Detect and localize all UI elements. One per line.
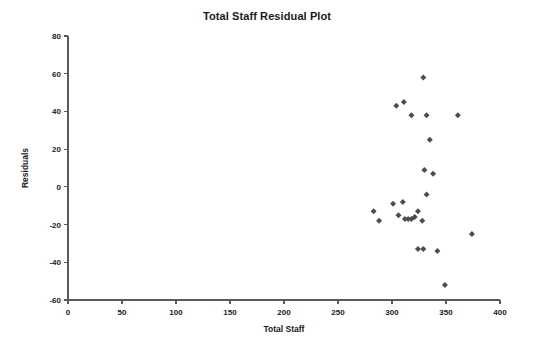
data-point xyxy=(424,191,430,197)
data-point xyxy=(390,201,396,207)
x-tick-label: 400 xyxy=(493,308,507,317)
y-tick-label: -40 xyxy=(49,258,61,267)
x-tick-label: 250 xyxy=(331,308,345,317)
data-point xyxy=(424,112,430,118)
data-point xyxy=(455,112,461,118)
data-point xyxy=(420,74,426,80)
y-tick-label: 80 xyxy=(52,32,61,41)
x-tick-label: 350 xyxy=(439,308,453,317)
x-tick-label: 0 xyxy=(66,308,71,317)
y-tick-label: 0 xyxy=(57,183,62,192)
data-point xyxy=(427,137,433,143)
data-point xyxy=(415,208,421,214)
x-tick-label: 200 xyxy=(277,308,291,317)
x-axis-ticks: 050100150200250300350400 xyxy=(66,300,507,317)
data-point xyxy=(421,167,427,173)
data-point xyxy=(442,282,448,288)
data-point xyxy=(376,218,382,224)
data-point xyxy=(420,246,426,252)
data-point xyxy=(434,248,440,254)
data-point xyxy=(400,199,406,205)
data-point xyxy=(430,171,436,177)
scatter-plot-canvas: -60-40-20020406080 050100150200250300350… xyxy=(0,0,534,351)
x-tick-label: 150 xyxy=(223,308,237,317)
y-tick-label: -60 xyxy=(49,296,61,305)
x-tick-label: 300 xyxy=(385,308,399,317)
y-tick-label: -20 xyxy=(49,221,61,230)
y-tick-label: 20 xyxy=(52,145,61,154)
data-point xyxy=(371,208,377,214)
data-point xyxy=(401,99,407,105)
x-tick-label: 50 xyxy=(118,308,127,317)
y-tick-label: 40 xyxy=(52,107,61,116)
data-point xyxy=(408,112,414,118)
y-axis-title: Residuals xyxy=(20,148,30,188)
data-points-layer xyxy=(371,74,475,287)
data-point xyxy=(395,212,401,218)
data-point xyxy=(419,218,425,224)
data-point xyxy=(415,246,421,252)
data-point xyxy=(469,231,475,237)
x-axis-title: Total Staff xyxy=(264,324,305,334)
y-tick-label: 60 xyxy=(52,70,61,79)
residual-plot-figure: Total Staff Residual Plot -60-40-2002040… xyxy=(0,0,534,351)
x-tick-label: 100 xyxy=(169,308,183,317)
data-point xyxy=(393,103,399,109)
y-axis-ticks: -60-40-20020406080 xyxy=(49,32,68,305)
